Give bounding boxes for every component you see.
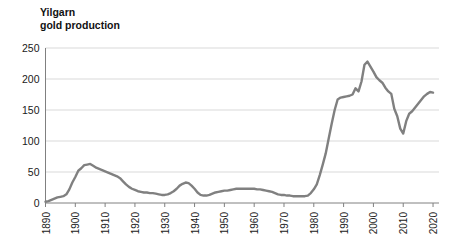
- gold-production-line: [46, 62, 434, 202]
- x-tick-label: 1960: [249, 212, 260, 235]
- x-tick-label: 1890: [41, 212, 52, 235]
- y-tick-label: 150: [22, 104, 40, 116]
- y-axis-tick-labels: 050100150200250: [22, 42, 40, 209]
- x-tick-label: 1910: [100, 212, 111, 235]
- x-tick-label: 2000: [368, 212, 379, 235]
- y-gridlines: [46, 48, 440, 172]
- y-tick-label: 250: [22, 42, 40, 54]
- line-chart-plot: 050100150200250 189019001910192019301940…: [0, 0, 452, 252]
- x-tick-label: 2020: [428, 212, 439, 235]
- chart-title-line-1: Yilgarn: [40, 6, 120, 19]
- x-tick-label: 1940: [190, 212, 201, 235]
- y-tick-label: 200: [22, 73, 40, 85]
- x-tick-label: 1980: [309, 212, 320, 235]
- x-tick-label: 1970: [279, 212, 290, 235]
- chart-title: Yilgarn gold production: [40, 6, 120, 32]
- chart-title-line-2: gold production: [40, 19, 120, 32]
- x-axis-ticks: [46, 203, 434, 207]
- x-tick-label: 1990: [339, 212, 350, 235]
- x-tick-label: 2010: [398, 212, 409, 235]
- y-tick-label: 0: [34, 197, 40, 209]
- chart-figure: Yilgarn gold production 050100150200250 …: [0, 0, 452, 252]
- x-tick-label: 1930: [160, 212, 171, 235]
- x-tick-label: 1920: [130, 212, 141, 235]
- x-tick-label: 1900: [70, 212, 81, 235]
- x-axis-tick-labels: 1890190019101920193019401950196019701980…: [41, 212, 440, 235]
- x-tick-label: 1950: [219, 212, 230, 235]
- y-tick-label: 100: [22, 135, 40, 147]
- y-tick-label: 50: [28, 166, 40, 178]
